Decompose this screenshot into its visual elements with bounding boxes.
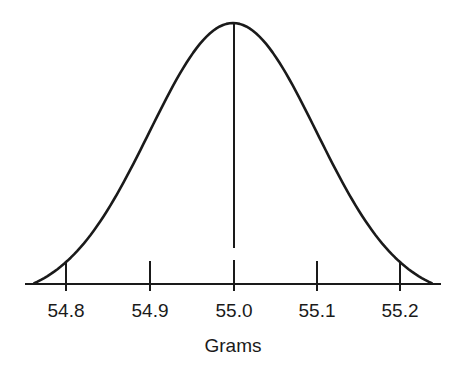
- tick-label: 55.2: [382, 300, 419, 321]
- x-axis-tick-labels: 54.8 54.9 55.0 55.1 55.2: [48, 300, 419, 321]
- x-axis-title: Grams: [205, 335, 262, 356]
- tick-label: 54.9: [132, 300, 169, 321]
- normal-distribution-chart: 54.8 54.9 55.0 55.1 55.2 Grams: [0, 0, 467, 373]
- tick-label: 55.1: [299, 300, 336, 321]
- tick-label: 54.8: [48, 300, 85, 321]
- tick-label: 55.0: [216, 300, 253, 321]
